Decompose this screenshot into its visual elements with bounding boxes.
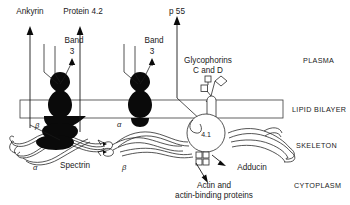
- label-band-3-right: Band: [144, 36, 164, 45]
- label-band-3-left: Band: [64, 36, 84, 45]
- zone-label-lipid-bilayer: LIPID BILAYER: [292, 105, 346, 114]
- label-band-3-left-number: 3: [70, 47, 75, 56]
- label-glycophorins-line2: C and D: [193, 66, 223, 75]
- label-alpha-mid: α: [117, 120, 122, 129]
- label-beta-mid: β: [121, 163, 127, 172]
- zone-label-skeleton: SKELETON: [296, 141, 337, 150]
- actin-oligomer: [196, 152, 209, 165]
- label-alpha-lower-left: α: [33, 163, 38, 172]
- label-actin-line2: actin-binding proteins: [175, 191, 253, 200]
- label-p55: p 55: [169, 7, 185, 16]
- diagram-canvas: Ankyrin Protein 4.2 Band 3 Band 3 p 55 G…: [0, 0, 350, 205]
- label-adducin: Adducin: [237, 163, 267, 172]
- label-glycophorins-line1: Glycophorins: [184, 56, 232, 65]
- label-ankyrin: Ankyrin: [16, 7, 44, 16]
- label-beta-upper-left: β: [34, 121, 40, 130]
- zone-label-cytoplasm: CYTOPLASM: [294, 181, 341, 190]
- band-3-protein-right: [128, 72, 152, 127]
- label-spectrin: Spectrin: [60, 161, 90, 170]
- band-3-protein-left: [36, 72, 86, 150]
- label-band-3-right-number: 3: [150, 47, 155, 56]
- zone-label-plasma: PLASMA: [303, 56, 334, 65]
- label-actin-line1: Actin and: [197, 181, 232, 190]
- membrane-skeleton-diagram: Ankyrin Protein 4.2 Band 3 Band 3 p 55 G…: [0, 0, 350, 205]
- label-protein-4-1: 4.1: [201, 131, 211, 138]
- actin-arrow: [196, 163, 208, 183]
- adducin-arrow: [212, 155, 226, 166]
- label-protein-4-2: Protein 4.2: [63, 7, 103, 16]
